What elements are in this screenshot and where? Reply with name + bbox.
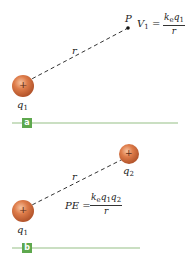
- diagram-canvas: [0, 0, 186, 262]
- fraction-denominator: r: [172, 26, 176, 36]
- fraction-numerator: keq1: [163, 13, 185, 26]
- panel-tag-b: b: [22, 243, 32, 253]
- plus-sign-b-q2: +: [125, 149, 133, 158]
- distance-line-a: [26, 28, 128, 82]
- point-p-dot: [126, 26, 130, 30]
- point-p-label: P: [125, 14, 132, 24]
- charge-label-q1-b: q1: [17, 225, 28, 237]
- distance-label-a: r: [72, 46, 77, 56]
- charge-label-q2-b: q2: [123, 166, 134, 178]
- pe-fraction: keq1q2 r: [90, 193, 122, 216]
- plus-sign-a: +: [19, 80, 27, 90]
- equals-sign: =: [152, 18, 160, 29]
- potential-lhs: V1 =: [137, 19, 160, 31]
- distance-label-b: r: [72, 172, 77, 182]
- potential-fraction: keq1 r: [163, 13, 185, 36]
- charge-label-q1-a: q1: [17, 100, 28, 112]
- plus-sign-b-q1: +: [19, 205, 27, 215]
- v-subscript: 1: [144, 23, 148, 31]
- pe-lhs: PE =: [65, 201, 91, 211]
- pe-numerator: keq1q2: [90, 193, 122, 206]
- panel-tag-a: a: [22, 118, 32, 128]
- pe-denominator: r: [104, 206, 108, 216]
